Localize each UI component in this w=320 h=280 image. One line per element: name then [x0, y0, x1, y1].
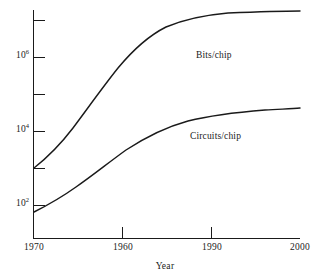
series-curve-bits-per-chip	[34, 11, 300, 168]
y-tick-label-1e6: 106	[2, 51, 29, 61]
y-tick-label-1e4: 104	[2, 125, 29, 135]
series-curve-circuits-per-chip	[34, 108, 300, 212]
x-tick-label-1970: 1970	[16, 243, 52, 253]
y-tick-label-1e2: 102	[2, 199, 29, 209]
y-tick-label-1e4-mantissa: 10	[16, 124, 26, 134]
series-label-circuits-per-chip: Circuits/chip	[190, 131, 241, 141]
x-tick-label-1960: 1960	[105, 243, 141, 253]
y-tick-label-1e4-exponent: 4	[26, 122, 29, 129]
x-tick-label-2000: 2000	[282, 243, 318, 253]
series-label-bits-per-chip: Bits/chip	[196, 50, 232, 60]
x-axis-title: Year	[130, 261, 200, 271]
y-tick-label-1e2-exponent: 2	[26, 196, 29, 203]
x-tick-label-1990: 1990	[194, 243, 230, 253]
y-tick-label-1e2-mantissa: 10	[16, 198, 26, 208]
chart-plot-area	[0, 0, 320, 280]
chart-figure: 106 104 102 1970 1960 1990 2000 Year Bit…	[0, 0, 320, 280]
y-tick-label-1e6-exponent: 6	[26, 48, 29, 55]
y-tick-label-1e6-mantissa: 10	[16, 50, 26, 60]
